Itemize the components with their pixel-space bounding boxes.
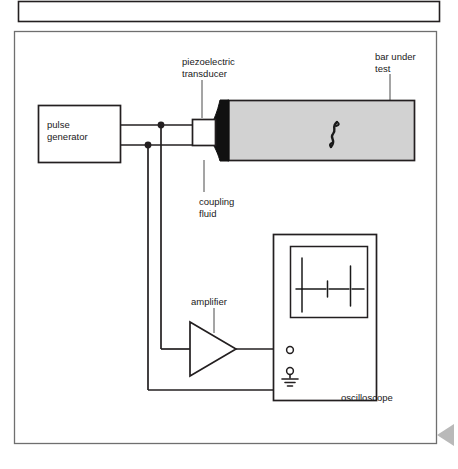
junction-dot-signal bbox=[158, 122, 165, 129]
ground-terminal[interactable] bbox=[287, 368, 294, 375]
label-bar-under-test: bar under test bbox=[375, 51, 449, 74]
label-coupling-fluid: coupling fluid bbox=[199, 196, 271, 219]
label-amplifier: amplifier bbox=[191, 296, 253, 308]
top-panel bbox=[19, 2, 440, 22]
junction-dot-ground bbox=[145, 142, 152, 149]
label-oscilloscope: oscilloscope bbox=[341, 392, 417, 404]
corner-marker-icon bbox=[437, 424, 454, 446]
label-pulse-generator: pulse generator bbox=[47, 119, 113, 142]
signal-terminal[interactable] bbox=[287, 347, 294, 354]
bar-under-test bbox=[229, 101, 415, 161]
piezoelectric-transducer bbox=[193, 120, 216, 146]
figure-canvas: piezoelectric transducer bar under test … bbox=[0, 0, 458, 469]
label-piezoelectric-transducer: piezoelectric transducer bbox=[182, 56, 268, 79]
